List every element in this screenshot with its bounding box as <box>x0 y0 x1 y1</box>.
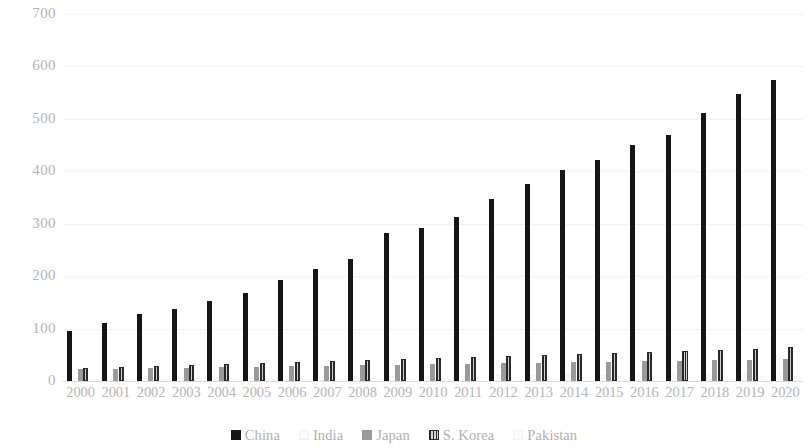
bar-cluster <box>733 14 768 381</box>
bar-japan-2002 <box>148 368 153 381</box>
legend-item-india[interactable]: India <box>299 428 343 443</box>
y-tick-label: 700 <box>0 6 56 21</box>
x-tick-label: 2010 <box>415 384 450 401</box>
bar-india-2017 <box>671 374 676 381</box>
legend-item-japan[interactable]: Japan <box>362 428 410 443</box>
chart-legend: ChinaIndiaJapanS. KoreaPakistan <box>0 424 808 446</box>
bar-china-2009 <box>384 233 389 381</box>
legend-item-pakistan[interactable]: Pakistan <box>513 428 577 443</box>
legend-label: India <box>313 428 343 443</box>
bar-japan-2011 <box>465 364 470 381</box>
x-tick-label: 2019 <box>733 384 768 401</box>
bar-cluster <box>133 14 168 381</box>
bar-s-korea-2013 <box>542 355 547 381</box>
bar-japan-2000 <box>78 369 83 381</box>
x-tick-label: 2014 <box>556 384 591 401</box>
bar-china-2017 <box>666 135 671 381</box>
x-tick-label: 2003 <box>169 384 204 401</box>
bar-cluster <box>239 14 274 381</box>
bar-s-korea-2015 <box>612 353 617 381</box>
bar-china-2015 <box>595 160 600 381</box>
y-axis: 0100200300400500600700 <box>0 14 56 381</box>
bar-india-2020 <box>777 373 782 381</box>
x-tick-label: 2007 <box>310 384 345 401</box>
x-tick-label: 2005 <box>239 384 274 401</box>
bar-s-korea-2006 <box>295 362 300 381</box>
y-tick-label: 300 <box>0 216 56 231</box>
legend-item-s-korea[interactable]: S. Korea <box>429 428 495 443</box>
bar-cluster <box>486 14 521 381</box>
y-tick-label: 0 <box>0 373 56 388</box>
y-tick-label: 400 <box>0 163 56 178</box>
bar-china-2008 <box>348 259 353 381</box>
bar-cluster <box>415 14 450 381</box>
bar-china-2001 <box>102 323 107 381</box>
bar-s-korea-2009 <box>401 359 406 381</box>
bar-s-korea-2016 <box>647 352 652 381</box>
y-tick-label: 100 <box>0 321 56 336</box>
x-tick-label: 2020 <box>768 384 803 401</box>
bar-s-korea-2020 <box>788 347 793 381</box>
bar-japan-2008 <box>360 365 365 381</box>
bar-japan-2003 <box>184 368 189 381</box>
x-tick-label: 2013 <box>521 384 556 401</box>
bar-s-korea-2008 <box>365 360 370 381</box>
bar-cluster <box>592 14 627 381</box>
bar-cluster <box>98 14 133 381</box>
x-tick-label: 2008 <box>345 384 380 401</box>
x-tick-label: 2009 <box>380 384 415 401</box>
bar-s-korea-2004 <box>224 364 229 381</box>
bar-china-2014 <box>560 170 565 381</box>
bar-japan-2007 <box>324 366 329 381</box>
x-tick-label: 2016 <box>627 384 662 401</box>
bar-s-korea-2003 <box>189 365 194 381</box>
bar-japan-2009 <box>395 365 400 381</box>
bar-s-korea-2005 <box>260 363 265 381</box>
bar-cluster <box>521 14 556 381</box>
bar-s-korea-2000 <box>83 368 88 381</box>
bar-cluster <box>204 14 239 381</box>
legend-swatch-icon <box>513 430 523 440</box>
bar-cluster <box>63 14 98 381</box>
bar-china-2002 <box>137 314 142 381</box>
bar-s-korea-2012 <box>506 356 511 381</box>
x-tick-label: 2004 <box>204 384 239 401</box>
x-tick-label: 2018 <box>697 384 732 401</box>
bar-india-2018 <box>706 374 711 381</box>
legend-label: China <box>245 428 280 443</box>
legend-swatch-icon <box>299 430 309 440</box>
x-tick-label: 2002 <box>133 384 168 401</box>
bar-cluster <box>274 14 309 381</box>
bar-s-korea-2018 <box>718 350 723 381</box>
bar-cluster <box>310 14 345 381</box>
legend-label: Pakistan <box>527 428 577 443</box>
bar-cluster <box>662 14 697 381</box>
bar-china-2013 <box>525 184 530 381</box>
bar-india-2016 <box>636 374 641 381</box>
bar-cluster <box>451 14 486 381</box>
x-tick-label: 2017 <box>662 384 697 401</box>
bar-china-2016 <box>630 145 635 381</box>
bar-japan-2006 <box>289 366 294 381</box>
bar-japan-2016 <box>642 361 647 381</box>
bar-s-korea-2007 <box>330 361 335 381</box>
bar-cluster <box>768 14 803 381</box>
bar-cluster <box>627 14 662 381</box>
bar-china-2019 <box>736 94 741 381</box>
x-axis: 2000200120022003200420052006200720082009… <box>63 384 803 406</box>
legend-swatch-icon <box>429 430 439 440</box>
bar-china-2007 <box>313 269 318 381</box>
bar-japan-2018 <box>712 360 717 381</box>
bar-japan-2012 <box>501 363 506 381</box>
legend-item-china[interactable]: China <box>231 428 280 443</box>
bar-china-2006 <box>278 280 283 381</box>
y-tick-label: 600 <box>0 58 56 73</box>
x-tick-label: 2001 <box>98 384 133 401</box>
bar-japan-2013 <box>536 363 541 381</box>
legend-label: S. Korea <box>443 428 495 443</box>
bar-japan-2005 <box>254 367 259 381</box>
x-tick-label: 2006 <box>274 384 309 401</box>
legend-swatch-icon <box>362 430 372 440</box>
bar-cluster <box>380 14 415 381</box>
bar-japan-2019 <box>747 360 752 381</box>
